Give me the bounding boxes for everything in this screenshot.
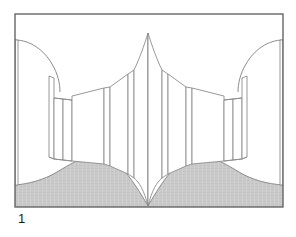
- panel-left-6: [110, 74, 128, 174]
- perspective-drawing: [0, 0, 296, 237]
- panel-left-5: [104, 87, 110, 166]
- panel-left-7: [128, 70, 134, 178]
- panel-left-2: [54, 98, 63, 160]
- panel-left-1: [49, 76, 54, 159]
- panel-right-4: [192, 88, 224, 164]
- panel-right-6: [168, 74, 186, 174]
- panel-left-3: [63, 99, 72, 161]
- panel-right-1: [242, 76, 247, 159]
- figure-container: 1: [0, 0, 296, 237]
- figure-caption: 1: [18, 211, 25, 226]
- panel-right-7: [162, 70, 168, 178]
- panel-right-3: [224, 99, 233, 161]
- panel-right-5: [186, 87, 192, 166]
- panel-left-4: [72, 88, 104, 164]
- panel-right-2: [233, 98, 242, 160]
